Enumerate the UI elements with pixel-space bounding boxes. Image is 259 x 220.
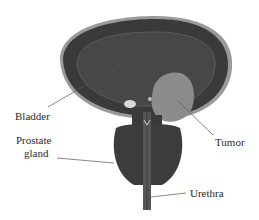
label-prostate-line1: Prostate <box>16 134 51 146</box>
urethra-leader-line <box>151 193 186 197</box>
label-tumor: Tumor <box>215 136 245 148</box>
ureteral-orifice <box>124 100 136 108</box>
label-urethra: Urethra <box>190 187 224 199</box>
label-bladder: Bladder <box>15 110 50 122</box>
urethra-lumen <box>146 112 148 210</box>
small-orifice <box>148 97 152 101</box>
prostate-leader-line <box>57 158 114 163</box>
label-prostate-line2: gland <box>24 147 48 159</box>
